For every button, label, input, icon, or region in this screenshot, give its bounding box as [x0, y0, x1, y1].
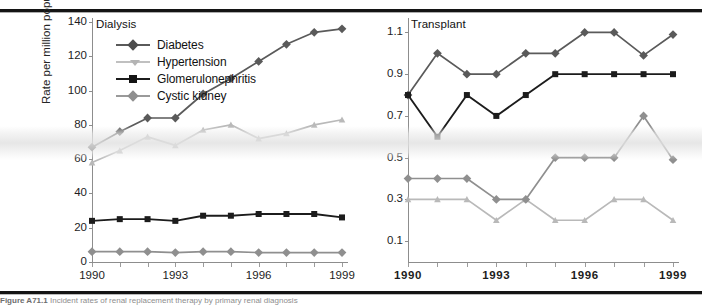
legend-item-diabetes: Diabetes: [116, 36, 256, 53]
data-point-marker: [404, 174, 413, 183]
data-point-marker: [172, 218, 178, 224]
data-point-marker: [143, 114, 152, 123]
figure-caption-label: Figure A71.1: [0, 296, 48, 305]
legend-item-glomerulonephritis: Glomerulonephritis: [116, 70, 256, 87]
data-point-marker: [227, 247, 236, 256]
legend-label-hypertension: Hypertension: [157, 55, 227, 69]
data-point-marker: [552, 71, 558, 77]
plot-area-transplant: 0.10.30.50.70.91.11990199319961999: [368, 12, 702, 282]
data-point-marker: [171, 248, 180, 257]
data-point-marker: [115, 247, 124, 256]
series-glomerulonephritis: [405, 71, 676, 140]
data-point-marker: [339, 214, 345, 220]
data-point-marker: [256, 211, 262, 217]
data-point-marker: [641, 71, 647, 77]
data-point-marker: [433, 174, 442, 183]
data-point-marker: [88, 247, 97, 256]
legend-swatch-glomerulonephritis: [116, 73, 150, 85]
legend-swatch-diabetes: [116, 39, 150, 51]
data-point-marker: [199, 247, 208, 256]
data-point-marker: [310, 248, 319, 257]
data-point-marker: [117, 216, 123, 222]
bottom-rule-shadow: [0, 294, 702, 295]
data-point-marker: [493, 113, 499, 119]
legend-label-glomerulonephritis: Glomerulonephritis: [157, 72, 256, 86]
data-point-marker: [338, 24, 347, 33]
diamond-marker-icon: [127, 90, 138, 101]
data-point-marker: [464, 92, 470, 98]
series-cystic kidney: [88, 247, 347, 257]
series-glomerulonephritis: [89, 211, 345, 224]
chart-panel-dialysis: Dialysis Rate per million population 020…: [46, 12, 368, 282]
data-point-marker: [580, 153, 589, 162]
figure-caption-text: Incident rates of renal replacement ther…: [50, 296, 298, 305]
data-point-marker: [611, 71, 617, 77]
legend-label-cystic-kidney: Cystic kidney: [157, 89, 226, 103]
series-hypertension: [89, 116, 346, 165]
square-marker-icon: [129, 75, 137, 83]
data-point-marker: [282, 40, 291, 49]
series-hypertension: [405, 196, 677, 223]
data-point-marker: [143, 247, 152, 256]
series-diabetes: [404, 28, 678, 99]
diamond-marker-icon: [127, 39, 138, 50]
data-point-marker: [88, 143, 97, 152]
data-point-marker: [283, 211, 289, 217]
chart-panel-transplant: Transplant 0.10.30.50.70.91.119901993199…: [368, 12, 702, 282]
data-point-marker: [115, 127, 124, 136]
data-point-marker: [310, 28, 319, 37]
legend-item-cystic-kidney: Cystic kidney: [116, 87, 256, 104]
data-point-marker: [338, 248, 347, 257]
series-layer: [368, 12, 693, 282]
data-point-marker: [311, 211, 317, 217]
figure-caption: Figure A71.1 Incident rates of renal rep…: [0, 296, 702, 307]
legend-swatch-cystic-kidney: [116, 90, 150, 102]
data-point-marker: [200, 213, 206, 219]
data-point-marker: [228, 213, 234, 219]
legend-label-diabetes: Diabetes: [157, 38, 204, 52]
data-point-marker: [434, 134, 440, 140]
data-point-marker: [405, 92, 411, 98]
triangle-marker-icon: [130, 60, 140, 66]
data-point-marker: [145, 216, 151, 222]
data-point-marker: [89, 218, 95, 224]
data-point-marker: [282, 248, 291, 257]
data-point-marker: [144, 134, 151, 140]
data-point-marker: [582, 71, 588, 77]
legend-swatch-hypertension: [116, 56, 150, 68]
legend-item-hypertension: Hypertension: [116, 53, 256, 70]
chart-legend: Diabetes Hypertension Glomerulonephritis: [116, 36, 256, 104]
figure-frame: Dialysis Rate per million population 020…: [0, 0, 702, 307]
data-point-marker: [254, 248, 263, 257]
data-point-marker: [670, 71, 676, 77]
data-point-marker: [523, 92, 529, 98]
